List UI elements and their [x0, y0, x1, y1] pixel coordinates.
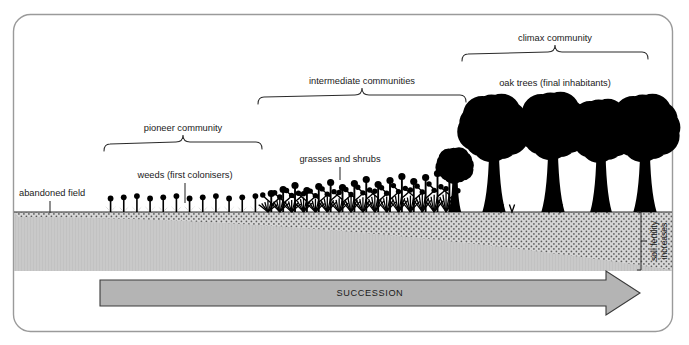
succession-diagram: pioneer communityintermediate communitie… [0, 0, 689, 345]
diagram-canvas: pioneer communityintermediate communitie… [0, 0, 689, 345]
weed-plant [105, 196, 116, 212]
bracket-intermediate [258, 88, 466, 104]
weed-plant [158, 194, 169, 212]
callout-label-abandoned-field: abandoned field [19, 188, 85, 198]
weed-plant [210, 193, 221, 212]
weed-plant [131, 193, 142, 212]
bracket-pioneer [104, 135, 262, 151]
succession-arrow-label: SUCCESSION [337, 288, 404, 298]
grass-tuft [389, 194, 408, 212]
callout-label-grasses-shrubs: grasses and shrubs [299, 154, 380, 164]
weed-plant [171, 193, 182, 212]
bracket-label-pioneer: pioneer community [144, 123, 223, 133]
bracket-climax [462, 45, 648, 61]
weed-plant [237, 194, 248, 212]
callout-label-oak-trees: oak trees (final inhabitants) [499, 78, 611, 88]
soil-fertility-label-line2: increases [659, 223, 669, 260]
weed-plant [224, 196, 235, 212]
weed-plant [145, 196, 156, 212]
bracket-label-climax: climax community [518, 33, 592, 43]
bracket-label-intermediate: intermediate communities [309, 76, 415, 86]
weed-plant [250, 193, 261, 212]
soil-fertility-label-line1: soil fertility [649, 220, 659, 261]
forest-floor-sprout [509, 205, 514, 213]
weed-plant [197, 194, 208, 212]
weed-plant [118, 194, 129, 212]
weed-plant [184, 196, 195, 212]
callout-label-weeds: weeds (first colonisers) [136, 170, 232, 180]
